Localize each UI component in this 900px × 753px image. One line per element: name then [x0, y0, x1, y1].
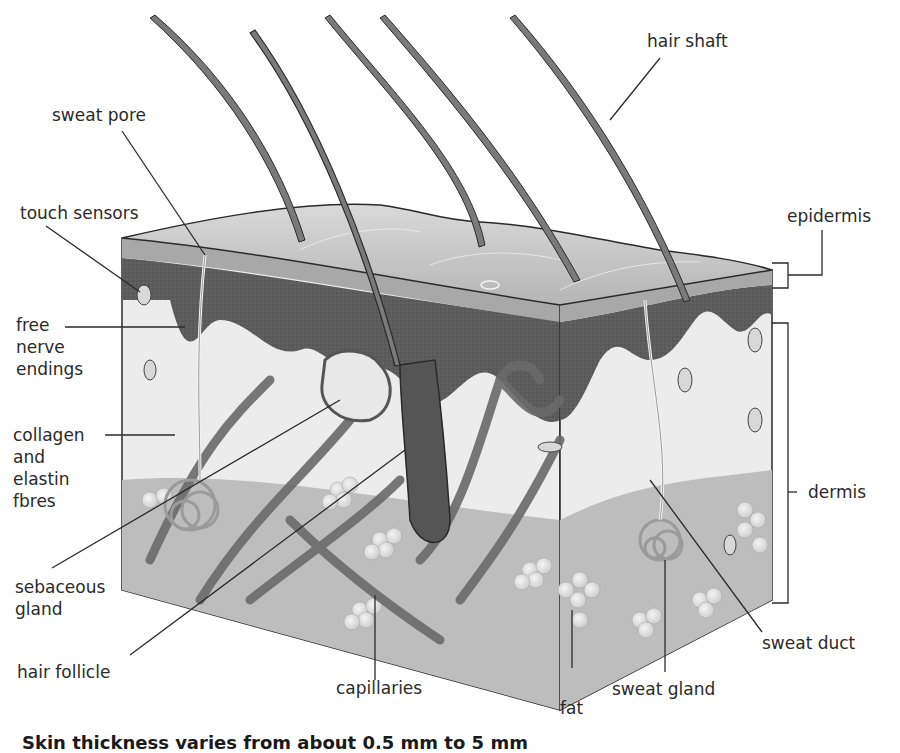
- label-sweat-pore: sweat pore: [52, 104, 146, 126]
- label-fat: fat: [560, 697, 583, 719]
- label-sweat-duct: sweat duct: [762, 632, 855, 654]
- right-face: [560, 270, 772, 710]
- left-face: [122, 238, 560, 710]
- label-sebaceous-gland: sebaceous gland: [15, 576, 105, 620]
- label-capillaries: capillaries: [336, 677, 422, 699]
- label-collagen-elastin: collagen and elastin fbres: [13, 424, 85, 512]
- label-epidermis: epidermis: [787, 205, 871, 227]
- label-free-nerve-endings: free nerve endings: [16, 314, 83, 380]
- label-sweat-gland: sweat gland: [612, 678, 715, 700]
- caption: Skin thickness varies from about 0.5 mm …: [22, 732, 528, 753]
- label-hair-follicle: hair follicle: [17, 661, 110, 683]
- label-touch-sensors: touch sensors: [20, 202, 139, 224]
- label-hair-shaft: hair shaft: [647, 30, 728, 52]
- label-dermis: dermis: [808, 481, 866, 503]
